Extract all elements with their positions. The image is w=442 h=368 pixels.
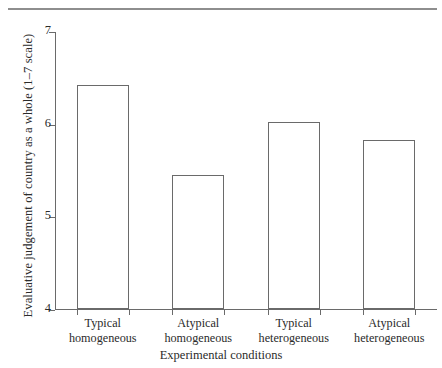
x-axis-category-label: Atypicalheterogeneous: [329, 316, 442, 346]
y-axis-tick-label: 7: [45, 24, 51, 37]
x-axis-tick-mark: [268, 310, 269, 315]
x-axis-tick-mark: [77, 310, 78, 315]
x-axis-tick-mark: [415, 310, 416, 315]
y-axis-tick-label: 6: [45, 117, 51, 130]
x-axis-tick-mark: [224, 310, 225, 315]
x-axis-title: Experimental conditions: [0, 348, 442, 363]
x-axis-tick-mark: [172, 310, 173, 315]
y-axis-title: Evaluative judgement of country as a who…: [21, 26, 36, 326]
bar: [172, 175, 224, 309]
x-axis-tick-mark: [320, 310, 321, 315]
x-axis-line: [55, 309, 437, 310]
y-axis-tick-label: 5: [45, 209, 51, 222]
bar-chart-figure: Evaluative judgement of country as a who…: [0, 0, 442, 368]
bar: [77, 85, 129, 309]
x-axis-category-label-line: Atypical: [329, 316, 442, 331]
x-axis-tick-mark: [129, 310, 130, 315]
y-axis-tick-label: 4: [45, 302, 51, 315]
x-axis-tick-mark: [363, 310, 364, 315]
bar: [268, 122, 320, 309]
y-axis-line: [55, 32, 56, 310]
plot-area: 4567: [55, 32, 437, 310]
bar: [363, 140, 415, 309]
x-axis-category-label-line: heterogeneous: [329, 331, 442, 346]
